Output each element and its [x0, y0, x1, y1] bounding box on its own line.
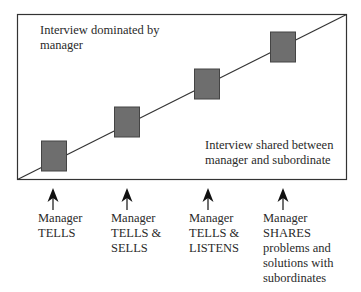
arrow-up-icon: [278, 188, 289, 210]
arrow-up-icon: [48, 188, 59, 210]
style-caption-tells: Manager TELLS: [38, 211, 82, 241]
style-marker-tells-sells: [115, 107, 140, 137]
style-caption-tells-sells: Manager TELLS & SELLS: [111, 211, 161, 256]
top-region-label: Interview dominated by manager: [40, 23, 170, 53]
arrow-up-icon: [203, 188, 214, 210]
style-caption-shares: Manager SHARES problems and solutions wi…: [263, 211, 334, 286]
style-marker-shares: [271, 32, 296, 62]
style-marker-tells-listens: [195, 69, 220, 99]
arrow-up-icon: [122, 188, 133, 210]
style-marker-tells: [42, 141, 67, 171]
bottom-region-label: Interview shared between manager and sub…: [205, 138, 345, 168]
style-caption-tells-listens: Manager TELLS & LISTENS: [189, 211, 239, 256]
